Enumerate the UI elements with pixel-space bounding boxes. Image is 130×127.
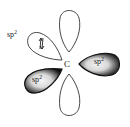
sp2-orbital-upper-left-lobe xyxy=(28,32,62,60)
carbon-symbol: C xyxy=(64,59,70,69)
p-orbital-top-lobe xyxy=(59,11,79,53)
sp2-label-right: sp2 xyxy=(94,58,104,66)
sp2-label-sup: 2 xyxy=(39,74,42,80)
sp2-orbital-lower-left-lobe xyxy=(25,69,62,94)
p-orbital-bottom-lobe xyxy=(59,74,79,116)
sp2-label-sup: 2 xyxy=(14,29,17,35)
sp2-label-upper-left: sp2 xyxy=(7,31,17,39)
sp2-label-sup: 2 xyxy=(101,56,104,62)
sp2-label-lower-left: sp2 xyxy=(32,76,42,84)
carbon-atom-label: C xyxy=(64,60,70,69)
